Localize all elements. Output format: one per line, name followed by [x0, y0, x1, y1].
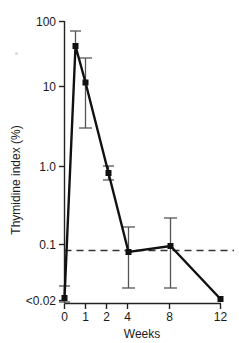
- x-tick-label-2: 2: [103, 310, 110, 324]
- data-point-week-0: [62, 295, 68, 301]
- y-tick-label-10: 10: [43, 80, 57, 94]
- y-tick-label-0-02: <0.02: [26, 294, 57, 308]
- y-tick-label-100: 100: [36, 15, 56, 29]
- data-point-week-0-5: [73, 43, 79, 49]
- data-point-week-1: [83, 80, 89, 86]
- y-axis-ticks: [59, 22, 65, 301]
- x-axis-title: Weeks: [124, 327, 160, 341]
- data-point-week-4: [126, 249, 132, 255]
- data-point-week-12: [218, 296, 224, 302]
- y-tick-label-1: 1.0: [39, 160, 56, 174]
- thymidine-index-figure: 100 10 1.0 0.1 <0.02 0 1 2 4 8 12 Weeks …: [0, 0, 239, 343]
- x-tick-label-4: 4: [124, 310, 131, 324]
- x-tick-label-8: 8: [166, 310, 173, 324]
- y-tick-label-0-1: 0.1: [39, 238, 56, 252]
- data-point-week-2: [106, 170, 112, 176]
- x-tick-label-1: 1: [82, 310, 89, 324]
- data-point-markers: [62, 43, 224, 302]
- scan-artifact-speck: [15, 52, 18, 55]
- x-axis-ticks: [65, 304, 221, 310]
- thymidine-index-chart: 100 10 1.0 0.1 <0.02 0 1 2 4 8 12 Weeks …: [0, 0, 239, 343]
- x-tick-label-0: 0: [61, 310, 68, 324]
- error-bars: [59, 31, 177, 302]
- data-point-week-8: [168, 243, 174, 249]
- y-axis-title: Thymidine index (%): [9, 125, 23, 234]
- x-tick-label-12: 12: [214, 310, 228, 324]
- error-bar-week-8: [164, 218, 177, 288]
